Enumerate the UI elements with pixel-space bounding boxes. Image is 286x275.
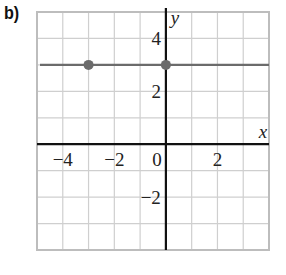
x-tick-label: −2: [104, 149, 124, 170]
x-axis-label: x: [258, 121, 268, 142]
x-tick-label: −4: [53, 149, 74, 170]
x-tick-label: 0: [152, 149, 162, 170]
y-axis-label: y: [169, 7, 180, 28]
y-tick-label: 4: [151, 28, 161, 49]
x-tick-label: 2: [213, 149, 223, 170]
coordinate-plane: −4−20242−2xy: [0, 0, 286, 275]
tick-labels: −4−20242−2xy: [53, 7, 268, 208]
y-tick-label: 2: [151, 81, 161, 102]
y-tick-label: −2: [141, 187, 161, 208]
data-point: [161, 60, 171, 70]
data-point: [84, 60, 94, 70]
